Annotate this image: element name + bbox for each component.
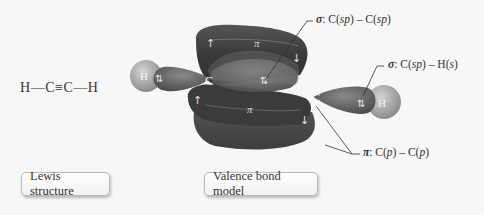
callout-sigma-ch: σ: C(sp) – H(s) (388, 58, 458, 70)
electron-pair-ch-left: ⇅ (155, 73, 163, 84)
up-arrow-top-left: ↑ (206, 37, 215, 50)
atom-label-h-left: H (140, 70, 148, 82)
callout-sigma-cc: σ: C(sp) – C(sp) (316, 13, 391, 25)
down-arrow-bottom-right: ↓ (300, 114, 309, 127)
pi-label-bottom: π (247, 103, 253, 115)
sigma-ch-lobe-right (313, 86, 376, 114)
atom-label-c-right: C (312, 91, 320, 105)
down-arrow-top-right: ↓ (292, 52, 301, 65)
valence-bond-model-button[interactable]: Valence bond model (204, 172, 318, 196)
leader-pi-cc-2 (325, 145, 352, 154)
atom-label-h-right: H (378, 97, 386, 109)
callout-pi-cc: π: C(p) – C(p) (363, 146, 429, 158)
atom-label-c-left: C (205, 74, 213, 88)
lewis-structure-button[interactable]: Lewis structure (21, 172, 110, 196)
electron-pair-ch-right: ⇅ (357, 98, 365, 109)
pi-label-top: π (254, 37, 260, 49)
up-arrow-bottom-left: ↑ (193, 94, 202, 107)
